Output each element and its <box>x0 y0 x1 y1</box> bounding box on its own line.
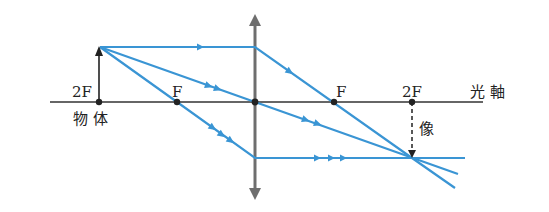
label-right-2f: 2F <box>402 83 422 101</box>
label-right-f: F <box>336 83 346 101</box>
light-rays <box>100 47 465 188</box>
label-image: 像 <box>419 120 434 138</box>
point-lens-center <box>252 99 259 106</box>
point-left-2f <box>96 99 102 105</box>
label-object: 物 体 <box>73 110 108 128</box>
ray-parallel <box>100 47 455 188</box>
label-optical-axis: 光 軸 <box>470 83 505 101</box>
ray-center <box>100 47 458 174</box>
image-arrow <box>408 102 416 158</box>
label-left-f: F <box>172 83 182 101</box>
convex-lens <box>249 14 261 200</box>
object-arrow <box>95 46 103 102</box>
lens-ray-diagram: 2F F F 2F 物 体 像 光 軸 <box>0 0 549 212</box>
label-left-2f: 2F <box>72 83 92 101</box>
